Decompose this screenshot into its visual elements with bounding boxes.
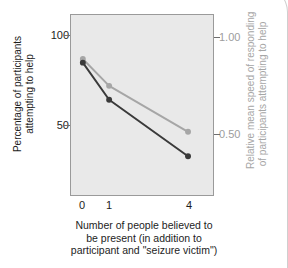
data-point	[80, 60, 86, 66]
series-relative-speed	[80, 56, 191, 135]
series-percentage-helping	[80, 60, 191, 159]
x-axis-title-line-3: participant and "seizure victim")	[6, 244, 282, 257]
y-tick-right-1-00	[214, 37, 220, 38]
y-axis-title-left-line-2: attempting to help	[24, 24, 36, 164]
y-axis-title-right-line-2: of participants attempting to help	[257, 19, 269, 169]
x-axis-title-line-1: Number of people believed to	[6, 219, 282, 232]
x-tick-label-1: 1	[97, 199, 121, 211]
series-line	[83, 63, 188, 157]
plot-area	[70, 14, 214, 196]
x-tick-label-4: 4	[177, 199, 201, 211]
x-axis-title: Number of people believed to be present …	[6, 219, 282, 257]
x-axis-title-line-2: be present (in addition to	[6, 232, 282, 245]
y-tick-label-right-0-50: 0.50	[219, 128, 240, 140]
plot-canvas	[71, 15, 213, 195]
data-point	[185, 129, 191, 135]
y-axis-title-right: Relative mean speed of responding of par…	[245, 19, 269, 169]
y-tick-right-0-50	[214, 134, 220, 135]
data-point	[106, 83, 112, 89]
x-tick-label-0: 0	[70, 199, 94, 211]
y-tick-label-right-1-00: 1.00	[219, 31, 240, 43]
series-line	[83, 59, 188, 132]
y-axis-title-right-line-1: Relative mean speed of responding	[245, 19, 257, 169]
y-axis-title-left: Percentage of participants attempting to…	[12, 24, 36, 164]
data-point	[106, 97, 112, 103]
data-point	[185, 153, 191, 159]
y-axis-title-left-line-1: Percentage of participants	[12, 24, 24, 164]
